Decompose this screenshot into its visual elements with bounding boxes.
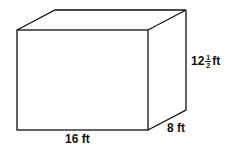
height-unit: ft (212, 54, 220, 68)
front-face (17, 30, 148, 130)
right-face (148, 10, 186, 130)
width-label: 8 ft (167, 121, 185, 135)
height-label: 1212ft (191, 54, 220, 69)
height-fraction: 12 (205, 54, 211, 69)
fraction-denominator: 2 (205, 62, 211, 69)
length-label: 16 ft (65, 132, 90, 146)
top-face (17, 10, 186, 30)
fraction-numerator: 1 (205, 54, 211, 62)
height-whole: 12 (191, 54, 204, 68)
prism-drawing (0, 0, 236, 151)
